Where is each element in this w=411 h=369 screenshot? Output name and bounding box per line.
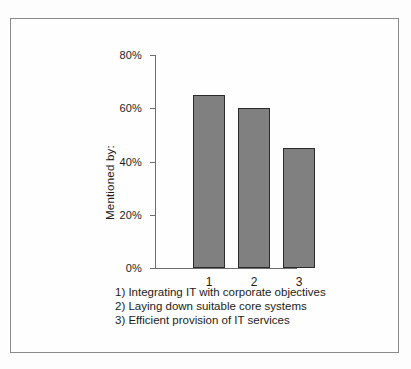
y-tick-label-2: 40% [119, 156, 142, 168]
bar-1 [193, 95, 225, 268]
y-tick-4: 80% [150, 55, 155, 56]
bar-2 [238, 108, 270, 268]
y-tick-label-4: 80% [119, 49, 142, 61]
legend: 1) Integrating IT with corporate objecti… [115, 285, 326, 327]
y-tick-1: 20% [150, 215, 155, 216]
legend-item-2: 2) Laying down suitable core systems [115, 299, 326, 313]
plot-area: 0% 20% 40% 60% 80% 1 2 3 [155, 55, 295, 268]
y-tick-0: 0% [150, 268, 155, 269]
chart-figure: Mentioned by: 0% 20% 40% 60% 80% 1 2 3 1… [0, 0, 411, 369]
x-axis-line [155, 268, 297, 269]
legend-item-3: 3) Efficient provision of IT services [115, 313, 326, 327]
y-tick-label-3: 60% [119, 102, 142, 114]
y-tick-label-0: 0% [126, 262, 142, 274]
y-axis-label: Mentioned by: [104, 110, 116, 220]
y-tick-3: 60% [150, 108, 155, 109]
legend-item-1: 1) Integrating IT with corporate objecti… [115, 285, 326, 299]
y-tick-label-1: 20% [119, 209, 142, 221]
y-tick-2: 40% [150, 162, 155, 163]
bar-3 [283, 148, 315, 268]
y-axis-line [155, 55, 156, 268]
